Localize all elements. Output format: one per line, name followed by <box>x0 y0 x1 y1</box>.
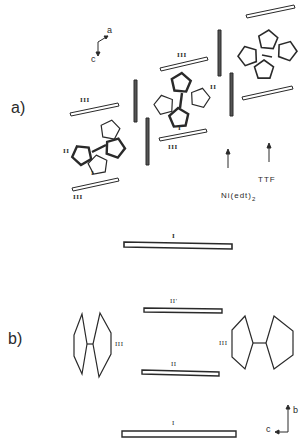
axis-c-label-b: c <box>266 425 271 434</box>
bar-i-middle <box>124 242 232 249</box>
side-molecule-left <box>74 313 111 377</box>
bar-label-iii-lower: III <box>73 194 83 201</box>
crystal-structure-diagram <box>0 0 306 445</box>
axis-a-c-icon <box>96 36 108 56</box>
bar-label-i-bottom: I <box>172 420 175 427</box>
axis-a-label: a <box>107 26 112 35</box>
mol2-label-ii: II <box>210 84 216 91</box>
mol2-label-i: I <box>178 125 181 132</box>
panel-a-label: a) <box>11 100 25 116</box>
bar-label-iii-left: III <box>80 97 90 104</box>
ttf-label: TTF <box>258 176 276 184</box>
side-mol-left-label: III <box>115 341 124 348</box>
ni-edt-molecule-left <box>69 119 128 175</box>
bar-label-iii-low-mid: III <box>168 144 178 151</box>
mol1-label-i: I <box>91 170 94 177</box>
bar-label-iii-mid: III <box>177 52 187 59</box>
bar-label-i-middle: I <box>172 233 175 240</box>
axis-b-c-icon <box>275 405 290 434</box>
ttf-molecule-top-right <box>236 29 300 78</box>
bar-label-ii: II <box>171 361 177 368</box>
ni-edt-molecule-middle <box>152 72 212 127</box>
part-b-bars <box>122 308 236 437</box>
ni-edt-label: Ni(edt)2 <box>221 192 256 202</box>
side-mol-right-label: III <box>219 340 228 347</box>
panel-b-label: b) <box>8 331 22 347</box>
axis-c-label: c <box>91 55 96 64</box>
bar-label-ii-prime: II' <box>170 298 177 305</box>
side-molecule-right <box>232 316 293 369</box>
molecule-arrows <box>226 143 271 168</box>
axis-b-label: b <box>293 406 298 415</box>
mol1-label-ii: II <box>63 148 69 155</box>
